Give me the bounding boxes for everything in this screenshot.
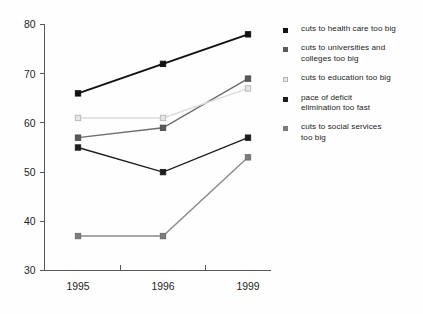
y-tick-label-30: 30 [24,265,36,276]
y-tick-label-40: 40 [24,216,36,227]
legend-item-label: cuts to education too big [301,73,391,83]
legend-swatch-icon [283,126,288,131]
data-point-marker [245,76,250,81]
legend-item-label: cuts to universities and colleges too bi… [301,43,385,64]
legend-swatch-icon [283,97,288,102]
legend-swatch-icon [283,28,288,33]
data-series-layer [75,32,250,239]
x-axis-tick-labels: 199519961999 [66,281,259,292]
legend-item-label: pace of deficit elimination too fast [301,93,370,114]
x-axis-ticks [121,265,206,271]
legend-item: cuts to social services too big [279,122,423,143]
y-tick-label-70: 70 [24,69,36,80]
chart-legend: cuts to health care too bigcuts to unive… [279,24,423,152]
y-axis-tick-labels: 304050607080 [24,19,36,276]
data-point-marker [160,169,165,174]
data-point-marker [160,61,165,66]
data-point-marker [75,91,80,96]
data-point-marker [245,32,250,37]
chart-figure: 304050607080 199519961999 cuts to health… [0,0,423,314]
legend-swatch-icon [283,77,288,82]
data-point-marker [75,145,80,150]
data-point-marker [75,233,80,238]
legend-item-label: cuts to social services too big [301,122,382,143]
x-tick-label-1999: 1999 [236,281,259,292]
y-tick-label-80: 80 [24,19,36,30]
data-point-marker [245,86,250,91]
data-point-marker [245,155,250,160]
x-tick-label-1996: 1996 [151,281,174,292]
x-tick-label-1995: 1995 [66,281,89,292]
legend-item: pace of deficit elimination too fast [279,93,423,114]
series-line-3 [78,138,248,172]
legend-swatch-icon [283,47,288,52]
y-tick-label-60: 60 [24,118,36,129]
legend-item: cuts to universities and colleges too bi… [279,43,423,64]
data-point-marker [245,135,250,140]
legend-item: cuts to health care too big [279,24,423,34]
legend-item-label: cuts to health care too big [301,24,396,34]
data-point-marker [75,135,80,140]
data-point-marker [75,115,80,120]
y-axis-ticks [40,25,45,271]
data-point-marker [160,233,165,238]
y-tick-label-50: 50 [24,167,36,178]
legend-item: cuts to education too big [279,73,423,83]
data-point-marker [160,115,165,120]
data-point-marker [160,125,165,130]
